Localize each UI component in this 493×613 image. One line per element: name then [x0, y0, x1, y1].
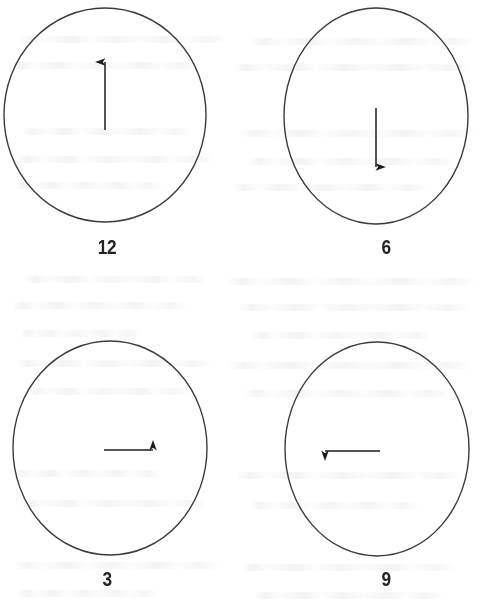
- clock-12-drawing: [0, 0, 214, 232]
- clock-6-drawing: [279, 0, 493, 232]
- figure-grid: 12 6: [0, 0, 493, 613]
- figure-label-12: 12: [19, 236, 194, 257]
- clock-3-drawing: [0, 335, 214, 561]
- figure-clock-6: 6: [279, 0, 493, 270]
- figure-clock-12: 12: [0, 0, 214, 270]
- diagram-page: 12 6: [0, 0, 493, 613]
- figure-label-6: 6: [298, 236, 473, 257]
- clock-9-drawing: [279, 335, 493, 561]
- figure-label-9: 9: [298, 568, 473, 589]
- figure-clock-3: 3: [0, 335, 214, 613]
- figure-label-3: 3: [19, 568, 194, 589]
- figure-clock-9: 9: [279, 335, 493, 613]
- circle-outline: [285, 342, 469, 556]
- circle-outline: [13, 341, 207, 555]
